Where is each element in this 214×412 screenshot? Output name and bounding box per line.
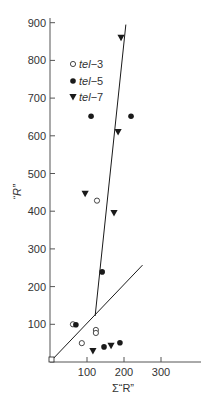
tel-7-point: [89, 348, 96, 354]
y-tick-label: 200: [28, 281, 46, 293]
x-axis-label: Σ“R”: [112, 382, 134, 394]
tel-7-point: [82, 191, 89, 197]
tel-5-point: [99, 269, 105, 275]
tel-7-point: [114, 129, 121, 135]
tel-3-point: [93, 330, 98, 335]
y-tick-label: 500: [28, 168, 46, 180]
legend: tel−3tel−5tel−7: [69, 58, 103, 103]
y-tick-label: 900: [28, 17, 46, 29]
y-axis-label: “R”: [11, 183, 23, 200]
y-tick-label: 100: [28, 318, 46, 330]
tel-7-point: [110, 210, 117, 216]
legend-marker-open-circle: [70, 61, 75, 66]
legend-marker-filled-circle: [70, 78, 76, 84]
tel-5-point: [88, 113, 94, 119]
scatter-chart: 100200300400500600700800900100200300 tel…: [0, 0, 214, 412]
tel-7-point: [117, 35, 124, 41]
legend-label: tel−3: [79, 58, 103, 70]
y-tick-label: 300: [28, 243, 46, 255]
legend-marker-filled-down-triangle: [69, 94, 76, 100]
y-tick-label: 800: [28, 54, 46, 66]
axes: 100200300400500600700800900100200300: [28, 17, 201, 378]
y-tick-label: 600: [28, 130, 46, 142]
tel-5-point: [73, 322, 79, 328]
origin-open-marker: [49, 357, 54, 362]
legend-label: tel−5: [79, 75, 103, 87]
tel-5-point: [128, 113, 134, 119]
tel-5-point: [101, 344, 107, 350]
tel-3-point: [79, 341, 84, 346]
tel-5-point: [117, 340, 123, 346]
diagonal-line: [50, 265, 143, 362]
x-tick-label: 300: [152, 366, 170, 378]
y-tick-label: 400: [28, 205, 46, 217]
tel-3-point: [94, 198, 99, 203]
legend-label: tel−7: [79, 91, 103, 103]
x-tick-label: 200: [115, 366, 133, 378]
x-tick-label: 100: [78, 366, 96, 378]
tel-7-point: [107, 343, 114, 349]
y-tick-label: 700: [28, 92, 46, 104]
